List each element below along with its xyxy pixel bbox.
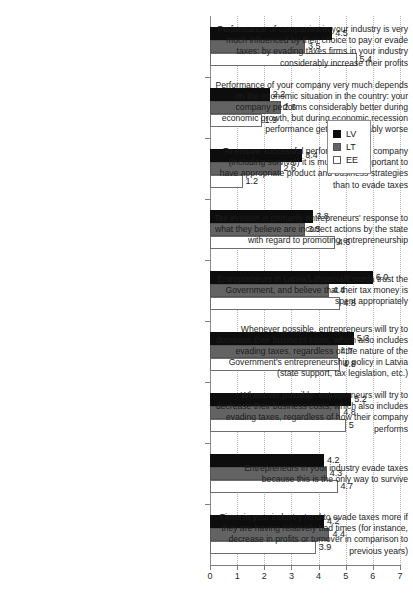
- category-label: To ensure successful performance of a co…: [210, 146, 413, 191]
- legend: LV LT EE: [327, 120, 371, 174]
- group-separator-tick: [205, 138, 211, 139]
- x-axis-tick: [237, 565, 238, 570]
- x-axis-tick-label: 1: [235, 571, 240, 581]
- category-label: Whenever possible, entrepreneurs will tr…: [210, 390, 413, 435]
- category-label: Performance of your company very much de…: [210, 80, 413, 136]
- x-axis-tick: [319, 565, 320, 570]
- x-axis-tick-label: 5: [343, 571, 348, 581]
- legend-label-ee: EE: [346, 155, 358, 165]
- category-label: Entrepreneurs in your industry evade tax…: [210, 463, 413, 485]
- legend-label-lt: LT: [346, 142, 356, 152]
- group-separator-tick: [205, 260, 211, 261]
- x-axis-tick: [346, 565, 347, 570]
- bar-chart: 01234567 4.53.55.42.22.61.93.42.61.23.83…: [0, 0, 413, 594]
- legend-swatch-ee-icon: [333, 156, 341, 164]
- group-separator-tick: [205, 504, 211, 505]
- group-separator-tick: [205, 443, 211, 444]
- x-axis-tick-label: 0: [207, 571, 212, 581]
- x-axis-tick: [400, 565, 401, 570]
- x-axis-line: [210, 565, 400, 566]
- x-axis-tick-label: 3: [289, 571, 294, 581]
- x-axis-tick-label: 6: [370, 571, 375, 581]
- legend-item-lt: LT: [333, 142, 366, 152]
- x-axis-tick: [291, 565, 292, 570]
- group-separator-tick: [205, 77, 211, 78]
- group-separator-tick: [205, 199, 211, 200]
- legend-swatch-lt-icon: [333, 143, 341, 151]
- category-label: Performance of companies in your industr…: [210, 24, 413, 69]
- x-axis-tick-label: 4: [316, 571, 321, 581]
- legend-item-ee: EE: [333, 155, 366, 165]
- x-axis-tick: [373, 565, 374, 570]
- category-label: Entrepreneurs in Latvia/Lithuania/Estoni…: [210, 274, 413, 308]
- legend-label-lv: LV: [346, 129, 356, 139]
- group-separator-tick: [205, 321, 211, 322]
- x-axis-tick-label: 2: [262, 571, 267, 581]
- legend-swatch-lv-icon: [333, 130, 341, 138]
- category-label: Firms in your industry tend to evade tax…: [210, 512, 413, 557]
- category-label: Whenever possible, entrepreneurs will tr…: [210, 324, 413, 380]
- x-axis-tick-label: 7: [397, 571, 402, 581]
- group-separator-tick: [205, 382, 211, 383]
- x-axis-tick: [210, 565, 211, 570]
- category-label: Tax evasion is primarily entrepreneurs' …: [210, 213, 413, 247]
- legend-item-lv: LV: [333, 129, 366, 139]
- x-axis-tick: [264, 565, 265, 570]
